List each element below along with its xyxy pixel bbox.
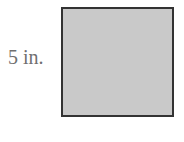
side-length-label: 5 in. bbox=[8, 46, 44, 69]
square-shape bbox=[61, 7, 174, 117]
